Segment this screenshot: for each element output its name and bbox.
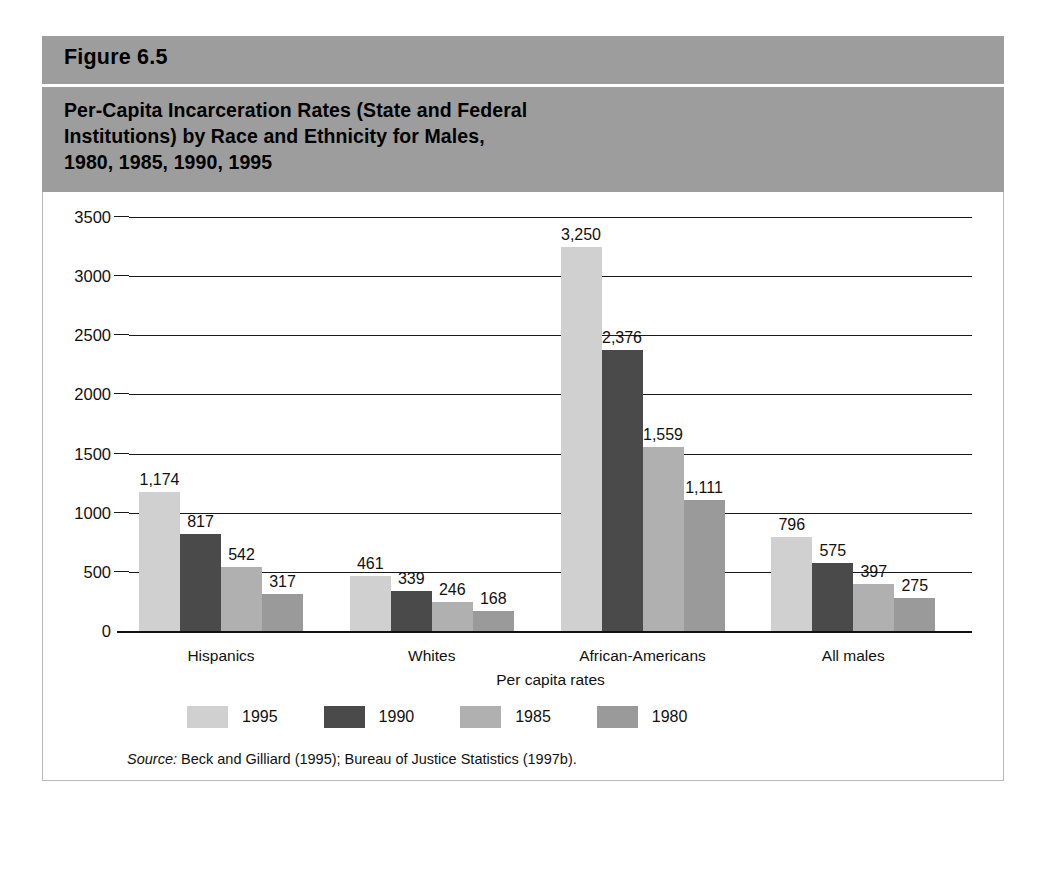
bar-value-label: 461 — [357, 555, 384, 573]
y-axis-tick-label: 0 — [102, 622, 111, 641]
y-axis-tick-label: 500 — [83, 562, 111, 581]
legend-swatch-icon — [460, 706, 501, 728]
plot-area: 05001000150020002500300035001,1748175423… — [129, 217, 972, 631]
bar-value-label: 1,559 — [643, 426, 683, 444]
bar-value-label: 246 — [439, 581, 466, 599]
chart-legend: 1995199019851980 — [187, 706, 733, 728]
bar-value-label: 542 — [228, 546, 255, 564]
gridline — [129, 217, 972, 218]
bar-1985-whites: 246 — [432, 602, 473, 631]
x-axis-title: Per capita rates — [496, 671, 605, 689]
bar-value-label: 275 — [901, 577, 928, 595]
y-axis-tick-label: 1000 — [74, 503, 111, 522]
bar-value-label: 397 — [860, 563, 887, 581]
bar-value-label: 317 — [269, 573, 296, 591]
bar-1995-all-males: 796 — [771, 537, 812, 631]
bar-1980-hispanics: 317 — [262, 594, 303, 631]
y-axis-tick-mark — [114, 571, 129, 572]
source-text: Beck and Gilliard (1995); Bureau of Just… — [177, 751, 577, 767]
bar-value-label: 575 — [819, 542, 846, 560]
x-axis-group-label: All males — [822, 647, 885, 665]
bar-value-label: 3,250 — [561, 226, 601, 244]
legend-item-1990[interactable]: 1990 — [324, 706, 415, 728]
gridline — [129, 276, 972, 277]
figure-number-band: Figure 6.5 — [42, 36, 1004, 84]
bar-value-label: 168 — [480, 590, 507, 608]
gridline — [129, 394, 972, 395]
source-keyword: Source: — [127, 751, 177, 767]
bar-1985-african-americans: 1,559 — [643, 447, 684, 631]
legend-label: 1985 — [515, 708, 551, 726]
x-axis-group-label: Whites — [408, 647, 455, 665]
legend-item-1985[interactable]: 1985 — [460, 706, 551, 728]
bar-1995-hispanics: 1,174 — [139, 492, 180, 631]
bar-value-label: 1,111 — [685, 479, 723, 497]
bar-1985-all-males: 397 — [853, 584, 894, 631]
figure-title-line-3: 1980, 1985, 1990, 1995 — [64, 149, 1004, 175]
source-note: Source: Beck and Gilliard (1995); Bureau… — [127, 751, 577, 767]
legend-label: 1980 — [652, 708, 688, 726]
x-axis-line — [117, 631, 972, 633]
bar-1990-african-americans: 2,376 — [602, 350, 643, 631]
legend-item-1995[interactable]: 1995 — [187, 706, 278, 728]
y-axis-tick-mark — [114, 453, 129, 454]
bar-1990-all-males: 575 — [812, 563, 853, 631]
figure-title-band: Per-Capita Incarceration Rates (State an… — [42, 87, 1004, 192]
bar-value-label: 1,174 — [139, 471, 179, 489]
figure-title-line-1: Per-Capita Incarceration Rates (State an… — [64, 97, 1004, 123]
y-axis-tick-mark — [114, 512, 129, 513]
legend-label: 1995 — [242, 708, 278, 726]
bar-1995-whites: 461 — [350, 576, 391, 631]
y-axis-tick-mark — [114, 334, 129, 335]
figure-container: Figure 6.5 Per-Capita Incarceration Rate… — [42, 36, 1004, 816]
bar-1995-african-americans: 3,250 — [561, 247, 602, 631]
bar-1990-hispanics: 817 — [180, 534, 221, 631]
bar-1985-hispanics: 542 — [221, 567, 262, 631]
bar-1980-african-americans: 1,111 — [684, 500, 725, 631]
bar-1980-whites: 168 — [473, 611, 514, 631]
legend-swatch-icon — [187, 706, 228, 728]
bar-1980-all-males: 275 — [894, 598, 935, 631]
gridline — [129, 513, 972, 514]
figure-number-label: Figure 6.5 — [64, 45, 168, 69]
chart-panel: 05001000150020002500300035001,1748175423… — [42, 192, 1004, 781]
y-axis-tick-label: 1500 — [74, 444, 111, 463]
x-axis-group-label: Hispanics — [187, 647, 254, 665]
legend-swatch-icon — [324, 706, 365, 728]
y-axis-tick-mark — [114, 275, 129, 276]
y-axis-tick-label: 2500 — [74, 326, 111, 345]
legend-item-1980[interactable]: 1980 — [597, 706, 688, 728]
bar-value-label: 2,376 — [602, 329, 642, 347]
y-axis-tick-label: 2000 — [74, 385, 111, 404]
figure-title-line-2: Institutions) by Race and Ethnicity for … — [64, 123, 1004, 149]
y-axis-tick-label: 3500 — [74, 208, 111, 227]
bar-1990-whites: 339 — [391, 591, 432, 631]
x-axis-group-label: African-Americans — [579, 647, 706, 665]
legend-swatch-icon — [597, 706, 638, 728]
gridline — [129, 335, 972, 336]
bar-value-label: 817 — [187, 513, 214, 531]
y-axis-tick-mark — [114, 216, 129, 217]
legend-label: 1990 — [379, 708, 415, 726]
bar-value-label: 339 — [398, 570, 425, 588]
y-axis-tick-label: 3000 — [74, 267, 111, 286]
gridline — [129, 454, 972, 455]
y-axis-tick-mark — [114, 393, 129, 394]
bar-value-label: 796 — [778, 516, 805, 534]
